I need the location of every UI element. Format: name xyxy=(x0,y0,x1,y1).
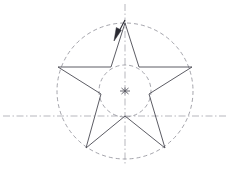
pentagram-diagram xyxy=(0,0,230,173)
center-cross-mark xyxy=(120,88,130,95)
canvas-background xyxy=(0,0,230,173)
figure-container: Pentagram construction diagram Five-poin… xyxy=(0,0,230,173)
